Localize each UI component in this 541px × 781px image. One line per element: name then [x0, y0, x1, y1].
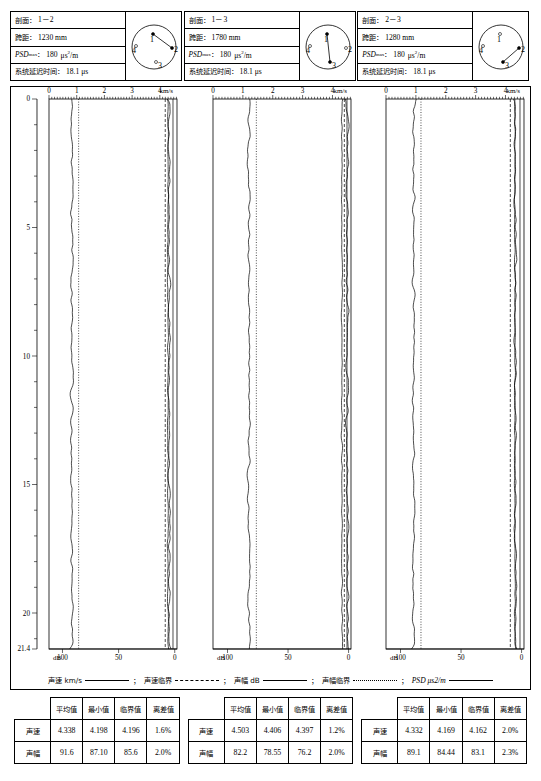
svg-text:km/s: km/s [507, 87, 521, 95]
psd-label: PSD [15, 51, 29, 58]
psd-curve [341, 99, 343, 649]
svg-text:0: 0 [211, 87, 215, 95]
row-header: 声速 [362, 720, 398, 742]
table-cell: 4.397 [288, 720, 320, 742]
legend-swatch-solid [85, 680, 129, 681]
legend-label-1: 声速 km/s [48, 675, 82, 685]
table-row: 声速4.5034.4064.3971.2% [188, 720, 353, 742]
table-cell: 2.3% [494, 742, 526, 764]
psd-subscript: max [376, 52, 385, 57]
statistics-table-3: 平均值最小值临界值离差值声速4.3324.1694.1622.0%声幅89.18… [357, 697, 531, 763]
table-header-row: 平均值最小值临界值离差值 [362, 698, 527, 720]
profile-track-2: 01234km/s100500dB [185, 87, 359, 691]
svg-text:50: 50 [115, 654, 123, 662]
span-label: 跨距： [189, 34, 210, 41]
table-cell: 1.6% [147, 720, 179, 742]
svg-text:3: 3 [505, 61, 509, 70]
psd-unit: μs2/m [408, 50, 426, 59]
profile-value: 1－2 [38, 16, 54, 24]
velocity-curve [167, 99, 171, 649]
statistics-table-1: 平均值最小值临界值离差值声速4.3384.1984.1961.6%声幅91.68… [10, 697, 184, 763]
svg-text:21.4: 21.4 [17, 645, 30, 653]
svg-text:1: 1 [241, 87, 245, 95]
psd-colon: ： [384, 51, 391, 58]
span-value: 1780 mm [212, 34, 241, 42]
span-label: 跨距： [362, 34, 383, 41]
statistics-table-2: 平均值最小值临界值离差值声速4.5034.4064.3971.2%声幅82.27… [184, 697, 358, 763]
span-row: 跨距：1230 mm [11, 29, 125, 46]
row-header: 声幅 [362, 742, 398, 764]
svg-text:3: 3 [332, 61, 336, 70]
table-row: 声幅82.278.5576.22.0% [188, 742, 353, 764]
psd-unit: μs2/m [61, 50, 79, 59]
svg-text:4: 4 [132, 46, 136, 55]
legend-label-5: PSD μs2/m [412, 676, 446, 685]
column-header: 最小值 [430, 698, 462, 720]
svg-text:15: 15 [23, 481, 31, 489]
panel-header-table: 剖面：1－3跨距：1780 mmPSDmax：180μs2/m系统延迟时间：18… [184, 11, 300, 81]
svg-text:2: 2 [174, 45, 178, 54]
psd-value: 180 [220, 51, 231, 59]
column-header: 离差值 [321, 698, 353, 720]
chart-frame: 01234km/s0510152021.4100500dB01234km/s10… [10, 86, 531, 690]
sensor-layout-1-2: 1234 [126, 11, 182, 81]
span-row: 跨距：1280 mm [358, 29, 472, 46]
table-cell: 4.332 [398, 720, 430, 742]
panel-header-3: 剖面：2－3跨距：1280 mmPSDmax：180μs2/m系统延迟时间：18… [357, 11, 531, 83]
panel-headers-row: 剖面：1－2跨距：1230 mmPSDmax：180μs2/m系统延迟时间：18… [10, 11, 531, 83]
table-cell: 76.2 [288, 742, 320, 764]
sensor-layout-2-3: 1234 [473, 11, 529, 81]
table-row: 声速4.3324.1694.1622.0% [362, 720, 527, 742]
profile-row: 剖面：1－2 [11, 12, 125, 29]
profile-label: 剖面： [189, 17, 210, 24]
psd-value: 180 [393, 51, 404, 59]
svg-text:50: 50 [458, 654, 466, 662]
psd-max-row: PSDmax：180μs2/m [11, 47, 125, 64]
column-header: 平均值 [398, 698, 430, 720]
panel-header-1: 剖面：1－2跨距：1230 mmPSDmax：180μs2/m系统延迟时间：18… [10, 11, 184, 83]
svg-text:3: 3 [474, 87, 478, 95]
psd-subscript: max [29, 52, 38, 57]
profile-row: 剖面：2－3 [358, 12, 472, 29]
table-cell: 1.2% [321, 720, 353, 742]
table-cell: 91.6 [51, 742, 83, 764]
table-cell: 78.55 [256, 742, 288, 764]
amplitude-curve [247, 99, 250, 649]
panel-header-2: 剖面：1－3跨距：1780 mmPSDmax：180μs2/m系统延迟时间：18… [184, 11, 358, 83]
psd-max-row: PSDmax：180μs2/m [185, 47, 299, 64]
legend-swatch-solid [449, 680, 493, 681]
table-cell: 4.338 [51, 720, 83, 742]
table-cell: 87.10 [83, 742, 115, 764]
table-header-row: 平均值最小值临界值离差值 [15, 698, 180, 720]
svg-text:km/s: km/s [159, 87, 173, 95]
psd-colon: ： [37, 51, 44, 58]
table-cell: 85.6 [115, 742, 147, 764]
system-delay-value: 18.1 μs [240, 68, 262, 76]
legend-label-4: 声幅临界 [322, 675, 350, 685]
legend-swatch-solid [263, 680, 307, 681]
column-header: 临界值 [288, 698, 320, 720]
panel-header-table: 剖面：1－2跨距：1230 mmPSDmax：180μs2/m系统延迟时间：18… [10, 11, 126, 81]
sensor-layout-1-3: 1234 [300, 11, 356, 81]
panel-header-table: 剖面：2－3跨距：1280 mmPSDmax：180μs2/m系统延迟时间：18… [357, 11, 473, 81]
table-row: 声速4.3384.1984.1961.6% [15, 720, 180, 742]
svg-text:3: 3 [130, 87, 134, 95]
psd-label: PSD [362, 51, 376, 58]
svg-text:0: 0 [384, 87, 388, 95]
svg-text:dB: dB [217, 654, 225, 662]
svg-text:2: 2 [348, 45, 352, 54]
span-value: 1280 mm [385, 34, 414, 42]
profile-value: 1－3 [212, 16, 228, 24]
span-row: 跨距：1780 mm [185, 29, 299, 46]
table-cell: 4.162 [462, 720, 494, 742]
report-page: 剖面：1－2跨距：1230 mmPSDmax：180μs2/m系统延迟时间：18… [0, 0, 541, 781]
row-header: 声幅 [15, 742, 51, 764]
svg-text:4: 4 [306, 46, 310, 55]
svg-text:dB: dB [53, 654, 61, 662]
table-cell: 2.0% [494, 720, 526, 742]
legend-separator: ； [223, 675, 230, 685]
table-cell: 82.2 [224, 742, 256, 764]
table-cell: 4.198 [83, 720, 115, 742]
table-cell: 4.406 [256, 720, 288, 742]
psd-colon: ： [211, 51, 218, 58]
